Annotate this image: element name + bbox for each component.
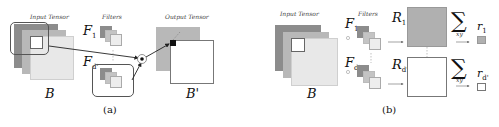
connector-arrows: [0, 0, 499, 127]
figure: Input Tensor B Filters F1 Fd' Output Ten…: [0, 0, 499, 127]
